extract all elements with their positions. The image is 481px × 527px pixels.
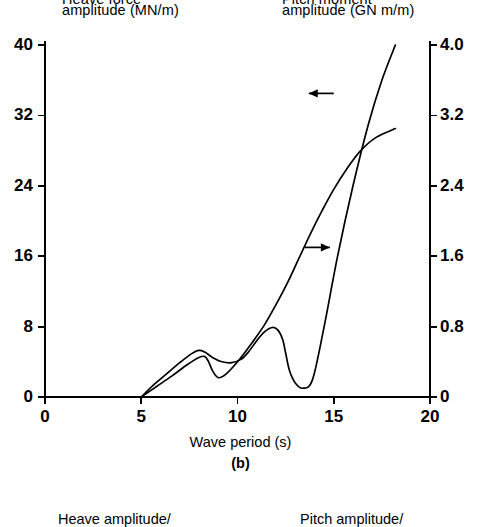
next-figure-right-caption: Pitch amplitude/ [300, 511, 403, 527]
next-figure-left-caption: Heave amplitude/ [58, 511, 171, 527]
x-tick-label-2: 10 [214, 408, 262, 425]
left-tick-label-0: 0 [0, 388, 33, 405]
annotations-group [305, 89, 334, 251]
arrow-to-left-axis [309, 89, 334, 97]
x-tick-label-0: 0 [21, 408, 69, 425]
x-tick-label-4: 20 [406, 408, 454, 425]
left-tick-label-3: 24 [0, 177, 33, 194]
series-group [141, 45, 395, 397]
panel-label: (b) [0, 455, 481, 471]
right-tick-label-5: 4.0 [440, 36, 481, 53]
left-tick-label-5: 40 [0, 36, 33, 53]
right-tick-label-3: 2.4 [440, 177, 481, 194]
arrow-to-right-axis [305, 243, 330, 251]
series-curve-0 [141, 45, 395, 397]
left-tick-label-2: 16 [0, 247, 33, 264]
right-tick-label-1: 0.8 [440, 318, 481, 335]
left-tick-label-1: 8 [0, 318, 33, 335]
x-axis-label: Wave period (s) [0, 434, 481, 450]
x-tick-label-3: 15 [310, 408, 358, 425]
right-tick-label-2: 1.6 [440, 247, 481, 264]
right-tick-label-0: 0 [440, 388, 481, 405]
right-tick-label-4: 3.2 [440, 106, 481, 123]
x-tick-label-1: 5 [117, 408, 165, 425]
left-tick-label-4: 32 [0, 106, 33, 123]
